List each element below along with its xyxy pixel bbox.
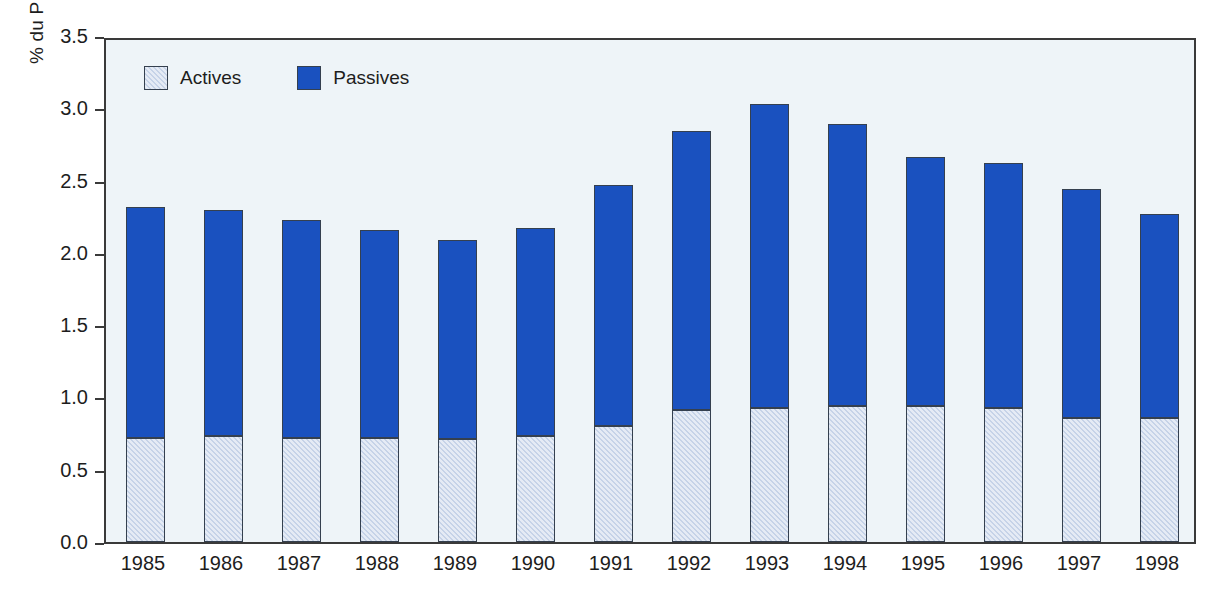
bar-group[interactable]	[984, 163, 1023, 542]
legend-swatch-actives-icon	[144, 66, 168, 90]
bar-group[interactable]	[1140, 214, 1179, 542]
bar-segment-actives[interactable]	[438, 439, 477, 542]
bar-group[interactable]	[750, 104, 789, 542]
y-axis-tick-mark	[95, 37, 104, 39]
x-axis-tick-label: 1989	[433, 552, 478, 575]
x-axis-tick-label: 1997	[1057, 552, 1102, 575]
bar-segment-passives[interactable]	[360, 230, 399, 438]
bar-segment-actives[interactable]	[360, 438, 399, 542]
bar-group[interactable]	[438, 240, 477, 542]
bar-segment-passives[interactable]	[204, 210, 243, 437]
bar-group[interactable]	[906, 157, 945, 542]
x-axis-tick-label: 1994	[823, 552, 868, 575]
bar-segment-passives[interactable]	[1062, 189, 1101, 417]
bar-segment-passives[interactable]	[1140, 214, 1179, 418]
bar-segment-passives[interactable]	[438, 240, 477, 440]
x-axis-tick-label: 1985	[121, 552, 166, 575]
bar-segment-actives[interactable]	[906, 406, 945, 542]
y-axis-tick-mark	[95, 254, 104, 256]
x-axis-tick-label: 1991	[589, 552, 634, 575]
y-axis-tick-label: 3.0	[60, 97, 88, 120]
chart-legend: ActivesPassives	[144, 66, 409, 90]
bar-segment-passives[interactable]	[828, 124, 867, 406]
bar-segment-actives[interactable]	[672, 410, 711, 542]
legend-item-passives[interactable]: Passives	[297, 66, 409, 90]
x-axis-tick-label: 1992	[667, 552, 712, 575]
y-axis-tick-mark	[95, 182, 104, 184]
x-axis-tick-label: 1993	[745, 552, 790, 575]
bar-segment-passives[interactable]	[126, 207, 165, 438]
y-axis-tick-label: 2.5	[60, 170, 88, 193]
x-axis-tick-layer: 1985198619871988198919901991199219931994…	[104, 552, 1196, 592]
y-axis-tick-label: 1.5	[60, 314, 88, 337]
bar-segment-actives[interactable]	[282, 438, 321, 542]
x-axis-tick-label: 1988	[355, 552, 400, 575]
bar-segment-passives[interactable]	[906, 157, 945, 406]
bar-segment-actives[interactable]	[126, 438, 165, 542]
x-axis-tick-label: 1996	[979, 552, 1024, 575]
bar-group[interactable]	[126, 207, 165, 542]
bar-segment-passives[interactable]	[516, 228, 555, 436]
y-axis-tick-label: 0.5	[60, 459, 88, 482]
y-axis-tick-label: 2.0	[60, 242, 88, 265]
y-axis-tick-mark	[95, 398, 104, 400]
x-axis-tick-label: 1998	[1135, 552, 1180, 575]
bar-group[interactable]	[282, 220, 321, 542]
y-axis-tick-label: 1.0	[60, 386, 88, 409]
x-axis-tick-label: 1986	[199, 552, 244, 575]
bar-segment-passives[interactable]	[672, 131, 711, 410]
bar-segment-actives[interactable]	[204, 436, 243, 542]
y-axis-tick-label: 0.0	[60, 531, 88, 554]
y-axis-tick-mark	[95, 326, 104, 328]
legend-swatch-passives-icon	[297, 66, 321, 90]
y-axis-tick-mark	[95, 109, 104, 111]
x-axis-tick-label: 1995	[901, 552, 946, 575]
x-axis-tick-label: 1990	[511, 552, 556, 575]
plot-area: ActivesPassives	[104, 38, 1196, 544]
bar-group[interactable]	[828, 124, 867, 542]
bar-segment-actives[interactable]	[1140, 418, 1179, 542]
bar-segment-passives[interactable]	[984, 163, 1023, 407]
y-axis-tick-mark	[95, 543, 104, 545]
bar-group[interactable]	[672, 131, 711, 542]
bar-group[interactable]	[1062, 189, 1101, 542]
bar-segment-actives[interactable]	[594, 426, 633, 542]
bar-group[interactable]	[360, 230, 399, 542]
bar-segment-passives[interactable]	[282, 220, 321, 438]
bar-group[interactable]	[594, 185, 633, 542]
bar-segment-actives[interactable]	[750, 408, 789, 542]
bars-container	[106, 40, 1194, 542]
legend-label: Actives	[180, 67, 241, 89]
legend-label: Passives	[333, 67, 409, 89]
y-axis-tick-mark	[95, 471, 104, 473]
bar-segment-passives[interactable]	[750, 104, 789, 408]
bar-segment-actives[interactable]	[984, 408, 1023, 542]
bar-segment-actives[interactable]	[1062, 418, 1101, 542]
y-axis-tick-label: 3.5	[60, 25, 88, 48]
bar-segment-passives[interactable]	[594, 185, 633, 426]
bar-segment-actives[interactable]	[828, 406, 867, 542]
bar-group[interactable]	[204, 210, 243, 543]
bar-segment-actives[interactable]	[516, 436, 555, 542]
chart-figure: % du PIB 0.00.51.01.52.02.53.03.5 Active…	[0, 0, 1216, 607]
legend-item-actives[interactable]: Actives	[144, 66, 241, 90]
bar-group[interactable]	[516, 228, 555, 542]
y-axis-tick-layer: 0.00.51.01.52.02.53.03.5	[0, 0, 104, 607]
x-axis-tick-label: 1987	[277, 552, 322, 575]
